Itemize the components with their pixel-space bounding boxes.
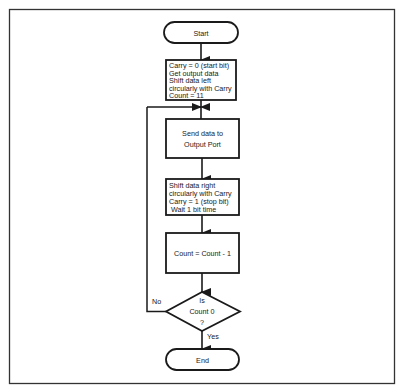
decision-line-1: Is (199, 296, 205, 305)
decision-line-2: Count 0 (189, 307, 214, 316)
send-line-2: Output Port (184, 140, 221, 149)
no-label: No (152, 297, 161, 306)
send-line-1: Send data to (182, 129, 223, 138)
decision-line-3: ? (200, 318, 204, 327)
flowchart-diagram: Start Carry = 0 (start bit) Get output d… (0, 0, 403, 391)
decision-diamond: Is Count 0 ? (166, 292, 240, 331)
end-label: End (196, 356, 209, 365)
end-terminator: End (166, 349, 239, 370)
init-process-box: Carry = 0 (start bit) Get output data Sh… (166, 60, 236, 100)
shift-line-4: Wait 1 bit time (171, 205, 216, 214)
count-line-1: Count = Count - 1 (174, 249, 231, 258)
no-loop-connector (147, 107, 166, 312)
init-line-5: Count = 11 (169, 91, 204, 100)
yes-label: Yes (207, 332, 219, 341)
send-process-box: Send data to Output Port (166, 119, 239, 158)
count-process-box: Count = Count - 1 (166, 233, 239, 273)
shift-process-box: Shift data right circularly with Carry C… (166, 179, 239, 215)
start-label: Start (193, 29, 208, 38)
start-terminator: Start (164, 22, 238, 43)
